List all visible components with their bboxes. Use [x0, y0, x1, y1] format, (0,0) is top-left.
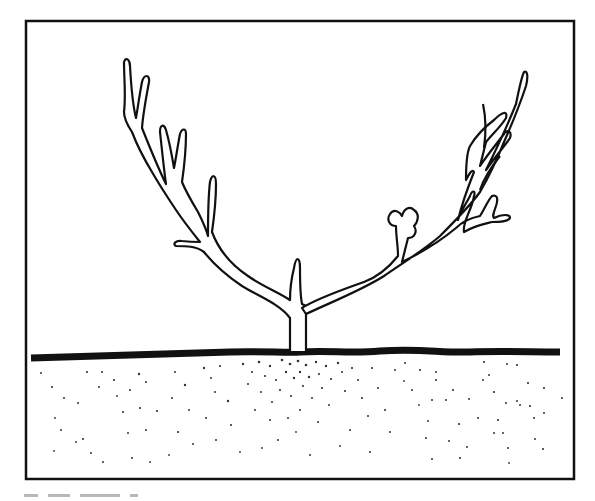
tree-illustration — [0, 0, 595, 501]
tree-right-limb — [302, 72, 527, 314]
figure-caption-clipped — [24, 494, 324, 501]
tree-trunk-and-left-limb — [124, 59, 306, 352]
soil-stipple — [40, 359, 563, 464]
tree — [124, 59, 527, 352]
